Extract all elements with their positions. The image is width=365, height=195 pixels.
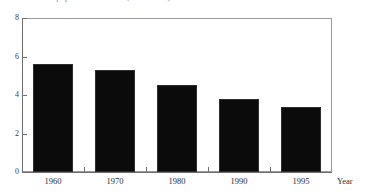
- y-tick-label: 0: [8, 168, 19, 176]
- bar: [281, 107, 321, 172]
- x-tick-label: 1980: [157, 177, 197, 186]
- plot-area: [23, 19, 331, 172]
- x-axis-line: [22, 172, 332, 173]
- y-tick-label: 2: [8, 130, 19, 138]
- y-tick-label: 6: [8, 53, 19, 61]
- x-tick-label: 1960: [33, 177, 73, 186]
- bar: [95, 70, 135, 172]
- x-tick-label: 1970: [95, 177, 135, 186]
- bar-chart-figure: Rate of natural population increase (196…: [0, 0, 365, 195]
- chart-title: Rate of natural population increase (196…: [2, 0, 262, 4]
- bar: [157, 85, 197, 172]
- y-tick-label: 8: [8, 14, 19, 22]
- bar: [219, 99, 259, 172]
- x-tick-label: 1995: [281, 177, 321, 186]
- x-axis-title: Year: [337, 177, 353, 186]
- y-tick-label: 4: [8, 91, 19, 99]
- bar: [33, 64, 73, 172]
- x-tick-label: 1990: [219, 177, 259, 186]
